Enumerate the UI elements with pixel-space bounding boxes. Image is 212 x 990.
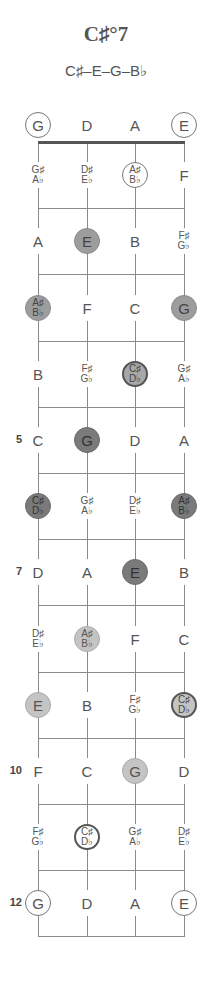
chord-tone-marker: G <box>74 427 100 453</box>
chord-tone-marker: G <box>122 758 148 784</box>
note-flat-name: A♭ <box>178 374 190 384</box>
note-flat-name: A♭ <box>129 837 141 847</box>
note-label: B <box>122 228 148 254</box>
note-flat-name: D♭ <box>129 374 141 384</box>
note-name: C <box>179 632 190 647</box>
note-flat-name: A♭ <box>81 506 93 516</box>
note-label: C <box>171 626 197 652</box>
fret-number: 10 <box>2 764 22 776</box>
chord-tone-marker: G <box>171 295 197 321</box>
chord-tone-marker: A♯B♭ <box>122 162 148 188</box>
chord-tone-marker: A♯B♭ <box>171 493 197 519</box>
note-label: G♯A♭ <box>25 162 51 188</box>
chord-tone-marker: E <box>171 112 197 138</box>
note-flat-name: D♭ <box>32 506 44 516</box>
fret-line <box>38 936 185 937</box>
note-name: A <box>179 433 189 448</box>
chord-tone-marker: G <box>25 890 51 916</box>
note-flat-name: E♭ <box>178 837 190 847</box>
chord-tone-marker: E <box>25 692 51 718</box>
note-flat-name: G♭ <box>81 374 94 384</box>
chord-tone-marker: G <box>25 112 51 138</box>
note-name: F <box>179 168 188 183</box>
fret-line <box>38 341 185 342</box>
fret-line <box>38 738 185 739</box>
chord-tone-marker: A♯B♭ <box>25 295 51 321</box>
note-label: F <box>122 626 148 652</box>
note-label: F♯G♭ <box>74 361 100 387</box>
fret-line <box>38 407 185 408</box>
fret-number: 12 <box>2 896 22 908</box>
chord-tone-marker: C♯D♭ <box>171 692 197 718</box>
note-name: B <box>179 565 189 580</box>
note-name: B <box>130 234 140 249</box>
chord-tone-marker: E <box>74 228 100 254</box>
fretboard-diagram: 571012GDAEG♯A♭D♯E♭A♯B♭FAEBF♯G♭A♯B♭FCGBF♯… <box>0 0 212 990</box>
note-label: A <box>122 890 148 916</box>
note-label: D♯E♭ <box>122 493 148 519</box>
chord-tone-marker: A♯B♭ <box>74 626 100 652</box>
fret-line <box>38 473 185 474</box>
note-flat-name: G♭ <box>178 241 191 251</box>
fret-number: 5 <box>2 433 22 445</box>
note-flat-name: D♭ <box>178 705 190 715</box>
note-flat-name: B♭ <box>32 308 44 318</box>
note-name: E <box>130 565 140 580</box>
note-flat-name: G♭ <box>129 705 142 715</box>
note-label: A <box>74 559 100 585</box>
note-label: D♯E♭ <box>25 626 51 652</box>
note-name: C <box>130 301 141 316</box>
fret-line <box>38 870 185 871</box>
note-name: B <box>82 698 92 713</box>
chord-tone-marker: C♯D♭ <box>122 361 148 387</box>
note-label: A <box>25 228 51 254</box>
note-flat-name: E♭ <box>129 506 141 516</box>
note-label: F♯G♭ <box>171 228 197 254</box>
note-flat-name: A♭ <box>32 175 44 185</box>
note-label: D <box>171 758 197 784</box>
chord-tone-marker: C♯D♭ <box>74 824 100 850</box>
note-flat-name: E♭ <box>32 639 44 649</box>
fret-number: 7 <box>2 565 22 577</box>
note-name: D <box>82 896 93 911</box>
note-label: D <box>74 890 100 916</box>
note-name: E <box>33 698 43 713</box>
chord-tone-marker: E <box>122 559 148 585</box>
note-label: A <box>122 112 148 138</box>
nut <box>38 141 185 144</box>
note-label: D♯E♭ <box>74 162 100 188</box>
note-flat-name: B♭ <box>81 639 93 649</box>
chord-tone-marker: E <box>171 890 197 916</box>
note-name: F <box>82 301 91 316</box>
fret-line <box>38 804 185 805</box>
note-name: G <box>32 896 44 911</box>
note-label: F♯G♭ <box>122 692 148 718</box>
note-name: A <box>130 896 140 911</box>
note-name: E <box>82 234 92 249</box>
note-label: B <box>171 559 197 585</box>
note-name: E <box>179 896 189 911</box>
note-label: A <box>171 427 197 453</box>
note-label: D <box>25 559 51 585</box>
note-flat-name: G♭ <box>32 837 45 847</box>
note-name: C <box>82 764 93 779</box>
note-name: G <box>178 301 190 316</box>
note-label: D♯E♭ <box>171 824 197 850</box>
note-label: G♯A♭ <box>122 824 148 850</box>
note-label: F♯G♭ <box>25 824 51 850</box>
note-label: G♯A♭ <box>171 361 197 387</box>
note-name: F <box>130 632 139 647</box>
note-name: A <box>33 234 43 249</box>
note-name: C <box>33 433 44 448</box>
note-flat-name: D♭ <box>81 837 93 847</box>
note-name: B <box>33 367 43 382</box>
note-name: F <box>33 764 42 779</box>
note-name: G <box>129 764 141 779</box>
fret-line <box>38 274 185 275</box>
note-name: A <box>130 118 140 133</box>
note-label: C <box>25 427 51 453</box>
note-name: E <box>179 118 189 133</box>
note-name: A <box>82 565 92 580</box>
note-name: D <box>82 118 93 133</box>
note-label: F <box>25 758 51 784</box>
